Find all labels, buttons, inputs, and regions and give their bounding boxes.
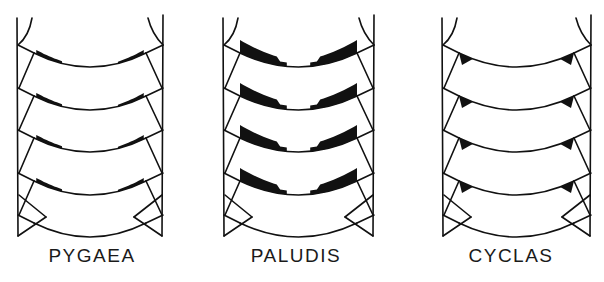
left-wall (223, 18, 224, 236)
last-tergite-margin (459, 223, 574, 237)
panel-paludis (223, 15, 374, 237)
right-wall (373, 15, 374, 236)
diagram-figure (0, 0, 604, 282)
label-paludis: PALUDIS (251, 244, 341, 268)
label-cyclas: CYCLAS (468, 244, 553, 268)
left-wall (442, 18, 443, 236)
last-tergite-margin (34, 223, 146, 237)
panel-cyclas (442, 15, 591, 237)
right-wall (590, 15, 591, 236)
last-tergite-margin (240, 223, 357, 237)
tergite-margin (459, 138, 574, 152)
dark-triangle-marking (459, 96, 473, 108)
tergite-margin (459, 181, 574, 195)
dark-triangle-marking (459, 181, 473, 193)
label-pygaea: PYGAEA (48, 244, 135, 268)
dark-triangle-marking (560, 181, 574, 193)
tergite-margin (459, 53, 574, 67)
right-wall (162, 15, 163, 236)
dark-triangle-marking (459, 53, 473, 65)
dark-triangle-marking (560, 53, 574, 65)
tergite-margin (459, 96, 574, 110)
left-wall (17, 18, 18, 236)
dark-triangle-marking (560, 138, 574, 150)
dark-triangle-marking (459, 138, 473, 150)
panel-pygaea (17, 15, 163, 237)
dark-triangle-marking (560, 96, 574, 108)
